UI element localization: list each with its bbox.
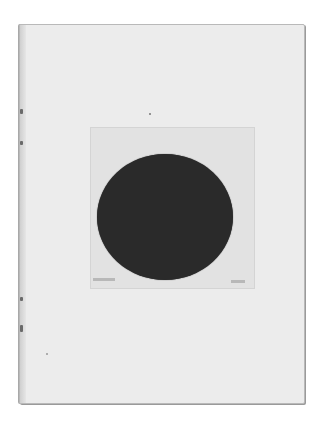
binding-stitch	[20, 325, 23, 332]
artwork-plate	[90, 127, 255, 289]
binding-stitch	[20, 141, 23, 145]
binding-stitch	[20, 297, 23, 301]
binding-stitch	[20, 109, 23, 114]
book-page	[19, 24, 305, 404]
plate-inscription	[93, 278, 115, 281]
paper-speck	[46, 353, 48, 355]
black-circle	[97, 154, 233, 280]
plate-inscription	[231, 280, 245, 283]
spine-edge	[20, 25, 26, 403]
paper-speck	[149, 113, 151, 115]
